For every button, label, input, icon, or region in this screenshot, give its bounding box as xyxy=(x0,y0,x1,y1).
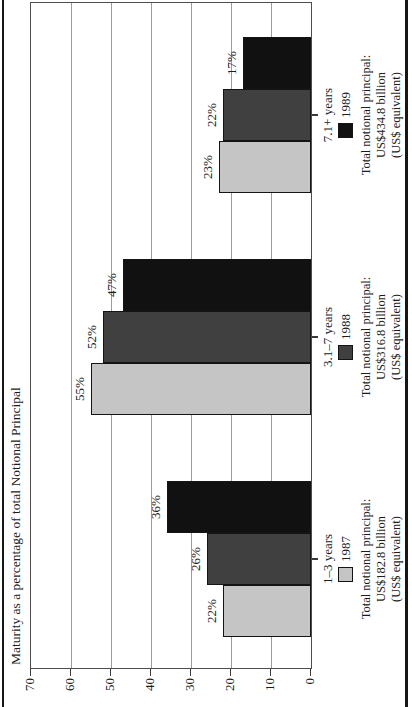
total-notional-line: US$316.8 billion xyxy=(374,227,389,447)
y-tick-label: 0 xyxy=(302,678,318,707)
bar-value-label: 23% xyxy=(201,155,215,179)
legend-swatch-1989 xyxy=(338,123,353,138)
bar-1989-group1 xyxy=(167,481,311,533)
category-label: 1–3 years xyxy=(320,449,336,669)
total-notional-line: Total notional principal: xyxy=(359,227,374,447)
y-tick-label: 60 xyxy=(62,678,78,707)
bar-1987-group1 xyxy=(223,585,311,637)
y-tick-label: 50 xyxy=(102,678,118,707)
bar-1988-group2 xyxy=(103,311,311,363)
y-tick-label: 30 xyxy=(182,678,198,707)
total-notional-line: US$434.8 billion xyxy=(374,5,389,225)
y-tick-label: 10 xyxy=(262,678,278,707)
y-tick-mark xyxy=(110,669,111,676)
bar-value-label: 26% xyxy=(189,547,203,571)
total-notional-line: Total notional principal: xyxy=(359,5,374,225)
total-notional-block: Total notional principal:US$182.8 billio… xyxy=(359,449,404,669)
group-footer-3: 7.1+ years1989Total notional principal:U… xyxy=(320,5,404,225)
legend-year-label: 1987 xyxy=(337,536,354,562)
y-tick-label: 20 xyxy=(222,678,238,707)
bar-value-label: 22% xyxy=(205,103,219,127)
y-tick-mark xyxy=(190,669,191,676)
y-tick-mark xyxy=(70,669,71,676)
bar-value-label: 36% xyxy=(149,495,163,519)
y-tick-mark xyxy=(310,669,311,676)
total-notional-line: (US$ equivalent) xyxy=(389,5,404,225)
legend-year-label: 1988 xyxy=(337,314,354,340)
bar-1987-group3 xyxy=(219,141,311,193)
category-label: 3.1–7 years xyxy=(320,227,336,447)
category-tick xyxy=(312,558,318,560)
total-notional-line: (US$ equivalent) xyxy=(389,449,404,669)
category-tick xyxy=(312,114,318,116)
legend-year-label: 1989 xyxy=(337,92,354,118)
legend-row: 1989 xyxy=(337,92,354,138)
rotated-chart-canvas: Maturity as a percentage of total Notion… xyxy=(0,0,412,707)
bar-value-label: 17% xyxy=(225,51,239,75)
legend-row: 1988 xyxy=(337,314,354,360)
bar-1989-group2 xyxy=(123,259,311,311)
bar-value-label: 47% xyxy=(105,273,119,297)
y-tick-mark xyxy=(150,669,151,676)
bar-value-label: 52% xyxy=(85,325,99,349)
y-tick-mark xyxy=(30,669,31,676)
y-tick-label: 70 xyxy=(22,678,38,707)
gridline-60 xyxy=(71,3,72,668)
group-footer-2: 3.1–7 years1988Total notional principal:… xyxy=(320,227,404,447)
total-notional-block: Total notional principal:US$316.8 billio… xyxy=(359,227,404,447)
legend-swatch-1988 xyxy=(338,345,353,360)
bar-1989-group3 xyxy=(243,37,311,89)
figure-top-rule xyxy=(2,0,4,707)
total-notional-line: Total notional principal: xyxy=(359,449,374,669)
total-notional-line: US$182.8 billion xyxy=(374,449,389,669)
y-tick-mark xyxy=(230,669,231,676)
legend-swatch-1987 xyxy=(338,567,353,582)
bar-1988-group3 xyxy=(223,89,311,141)
legend-row: 1987 xyxy=(337,536,354,582)
bar-1988-group1 xyxy=(207,533,311,585)
total-notional-block: Total notional principal:US$434.8 billio… xyxy=(359,5,404,225)
bar-1987-group2 xyxy=(91,363,311,415)
bar-value-label: 22% xyxy=(205,599,219,623)
plot-area: 22%55%23%26%52%22%36%47%17% xyxy=(30,2,312,669)
total-notional-line: (US$ equivalent) xyxy=(389,227,404,447)
y-tick-mark xyxy=(270,669,271,676)
bar-value-label: 55% xyxy=(73,377,87,401)
category-tick xyxy=(312,336,318,338)
figure-bottom-rule xyxy=(405,0,408,707)
category-label: 7.1+ years xyxy=(320,5,336,225)
y-tick-label: 40 xyxy=(142,678,158,707)
chart-title: Maturity as a percentage of total Notion… xyxy=(8,387,24,665)
figure-viewport: Maturity as a percentage of total Notion… xyxy=(0,0,412,707)
group-footer-1: 1–3 years1987Total notional principal:US… xyxy=(320,449,404,669)
